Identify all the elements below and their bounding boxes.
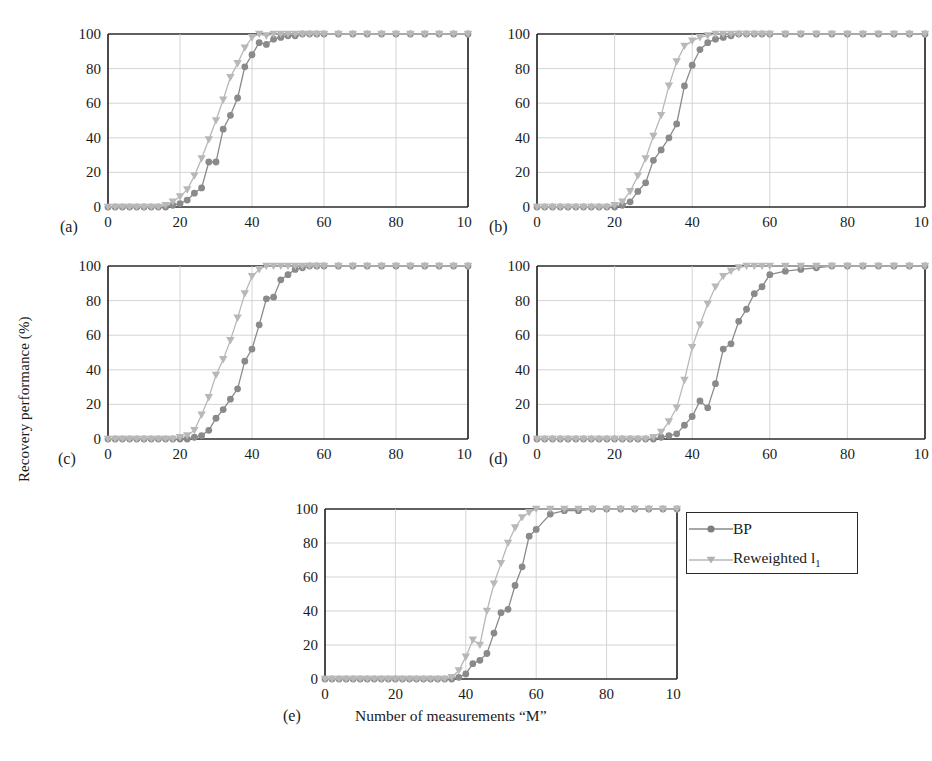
- subplot-b: 020406080100020406080100: [489, 22, 929, 237]
- y-tick-label: 100: [296, 501, 319, 517]
- data-point-marker: [512, 582, 519, 589]
- data-point-marker: [642, 179, 649, 186]
- legend-label-bp: BP: [733, 520, 752, 538]
- legend-item-bp: BP: [687, 513, 857, 544]
- data-point-marker: [476, 657, 483, 664]
- y-tick-label: 80: [303, 535, 318, 551]
- data-point-marker: [484, 650, 491, 657]
- data-point-marker: [688, 344, 696, 351]
- data-point-marker: [263, 41, 270, 48]
- data-point-marker: [213, 159, 220, 166]
- series-line: [108, 266, 468, 439]
- x-tick-label: 80: [389, 214, 404, 230]
- x-tick-label: 20: [388, 686, 403, 702]
- y-tick-label: 20: [86, 164, 101, 180]
- plot-canvas: 020406080100020406080100: [277, 497, 681, 709]
- data-point-marker: [712, 380, 719, 387]
- data-point-marker: [212, 372, 220, 379]
- data-point-marker: [249, 51, 256, 58]
- data-point-marker: [234, 95, 241, 102]
- y-tick-label: 40: [303, 603, 318, 619]
- series-reweighted: [533, 31, 929, 211]
- y-axis-label-text: Recovery performance (%): [16, 232, 33, 482]
- data-point-marker: [697, 398, 704, 405]
- y-tick-label: 40: [86, 362, 101, 378]
- data-point-marker: [270, 294, 277, 301]
- data-point-marker: [704, 301, 712, 308]
- series-reweighted: [104, 263, 472, 443]
- legend-marker-triangle-down-icon: [689, 551, 733, 569]
- data-point-marker: [627, 198, 634, 205]
- x-tick-label: 0: [104, 446, 112, 462]
- data-point-marker: [197, 155, 205, 162]
- legend-label-reweighted-main: Reweighted l: [733, 549, 815, 566]
- data-point-marker: [219, 356, 227, 363]
- x-tick-label: 20: [173, 214, 188, 230]
- data-point-marker: [490, 580, 498, 587]
- y-tick-label: 100: [79, 26, 102, 42]
- data-point-marker: [657, 429, 665, 436]
- x-tick-label: 60: [317, 446, 332, 462]
- x-tick-label: 60: [762, 214, 777, 230]
- x-tick-label: 100: [914, 214, 929, 230]
- figure-recovery-performance: Recovery performance (%) 020406080100020…: [0, 0, 932, 761]
- data-point-marker: [233, 315, 241, 322]
- series-reweighted: [104, 31, 472, 211]
- x-tick-label: 40: [458, 686, 473, 702]
- data-point-marker: [673, 430, 680, 437]
- x-tick-label: 40: [685, 446, 700, 462]
- data-point-marker: [263, 295, 270, 302]
- y-tick-label: 0: [311, 671, 319, 687]
- data-point-marker: [672, 58, 680, 65]
- data-point-marker: [227, 112, 234, 119]
- x-tick-label: 100: [457, 446, 472, 462]
- y-tick-label: 100: [79, 258, 102, 274]
- legend: BP Reweighted l1: [686, 512, 858, 574]
- data-point-marker: [256, 39, 263, 46]
- data-point-marker: [735, 264, 743, 271]
- data-point-marker: [184, 197, 191, 204]
- data-point-marker: [519, 563, 526, 570]
- x-tick-label: 40: [245, 446, 260, 462]
- data-point-marker: [233, 60, 241, 67]
- data-point-marker: [518, 514, 526, 521]
- subplot-d: 020406080100020406080100: [489, 254, 929, 469]
- data-point-marker: [743, 306, 750, 313]
- data-point-marker: [759, 283, 766, 290]
- data-point-marker: [634, 173, 642, 180]
- x-axis-label: Number of measurements “M”: [355, 707, 547, 725]
- data-point-marker: [727, 268, 735, 275]
- x-tick-label: 20: [607, 214, 622, 230]
- series-bp: [534, 31, 929, 211]
- data-point-marker: [219, 96, 227, 103]
- data-point-marker: [220, 406, 227, 413]
- data-point-marker: [491, 630, 498, 637]
- data-point-marker: [241, 44, 249, 51]
- data-point-marker: [226, 337, 234, 344]
- x-tick-label: 20: [173, 446, 188, 462]
- data-point-marker: [505, 606, 512, 613]
- series-bp: [105, 31, 472, 211]
- plot-canvas: 020406080100020406080100: [489, 22, 929, 237]
- data-point-marker: [227, 396, 234, 403]
- data-point-marker: [177, 200, 184, 207]
- subplot-label-e: (e): [283, 707, 301, 725]
- series-line: [108, 34, 468, 207]
- x-tick-label: 80: [389, 446, 404, 462]
- y-tick-label: 0: [94, 199, 102, 215]
- x-tick-label: 0: [321, 686, 329, 702]
- data-point-marker: [462, 654, 470, 661]
- data-point-marker: [696, 321, 704, 328]
- data-point-marker: [657, 112, 665, 119]
- data-point-marker: [672, 405, 680, 412]
- y-tick-label: 20: [86, 396, 101, 412]
- x-tick-label: 40: [685, 214, 700, 230]
- data-point-marker: [197, 411, 205, 418]
- y-tick-label: 20: [515, 164, 530, 180]
- subplot-label-d: (d): [489, 450, 508, 468]
- series-line: [537, 34, 925, 207]
- data-point-marker: [665, 83, 673, 90]
- data-point-marker: [241, 358, 248, 365]
- data-point-marker: [697, 46, 704, 53]
- y-tick-label: 60: [86, 95, 101, 111]
